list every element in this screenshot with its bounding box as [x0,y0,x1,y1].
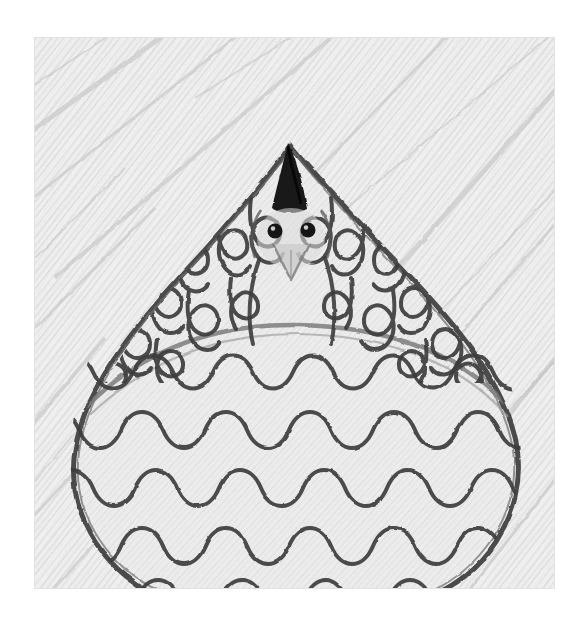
drawing-frame [35,38,554,588]
screenshot-canvas: Pencil sketch of a stylized hen chicken … [0,0,585,625]
pencil-drawing [35,38,554,588]
paper-grain-overlay [35,38,554,588]
